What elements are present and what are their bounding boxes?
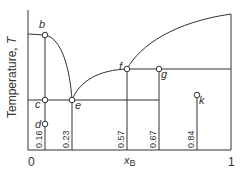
label-g: g — [161, 68, 168, 80]
x-axis-label: xB — [123, 154, 136, 168]
composition-label-023: 0.23 — [61, 130, 71, 148]
label-k: k — [199, 94, 205, 106]
x-tick-0: 0 — [28, 155, 35, 169]
composition-label-057: 0.57 — [116, 130, 126, 148]
point-d — [42, 121, 48, 127]
liquidus-right-curve — [127, 14, 231, 69]
liquidus-left-curve — [28, 34, 72, 100]
x-tick-1: 1 — [228, 155, 235, 169]
point-c — [42, 97, 48, 103]
composition-label-067: 0.67 — [148, 130, 158, 148]
label-b: b — [39, 18, 45, 30]
composition-label-084: 0.84 — [186, 130, 196, 148]
liquidus-middle-curve — [72, 69, 127, 100]
phase-diagram: b c d e f g k 0.16 0.23 0.57 0.67 0.84 0… — [0, 0, 245, 174]
point-b — [42, 32, 48, 38]
y-axis-label: Temperature, T — [5, 35, 19, 118]
composition-label-016: 0.16 — [34, 130, 44, 148]
point-f — [124, 66, 130, 72]
point-e — [69, 97, 75, 103]
label-d: d — [35, 118, 42, 130]
label-c: c — [35, 98, 41, 110]
label-f: f — [119, 60, 123, 72]
label-e: e — [75, 99, 81, 111]
